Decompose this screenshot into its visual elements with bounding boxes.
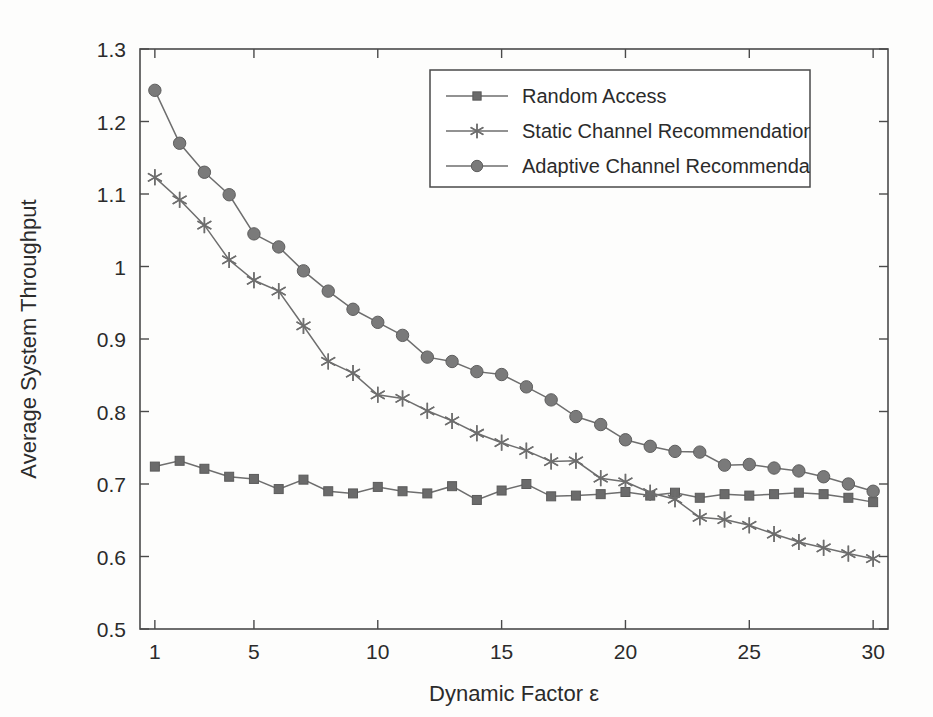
y-tick-label: 0.9 [97, 328, 126, 351]
marker-circle [694, 446, 706, 458]
marker-circle [248, 228, 260, 240]
marker-star [792, 534, 806, 550]
y-tick-label: 0.5 [97, 618, 126, 641]
marker-star [817, 540, 831, 556]
marker-square [720, 490, 729, 499]
marker-star [321, 353, 335, 369]
marker-circle [421, 351, 433, 363]
x-tick-label: 5 [248, 640, 260, 663]
marker-star [445, 413, 459, 429]
marker-square [819, 490, 828, 499]
marker-square [324, 487, 333, 496]
marker-star [470, 425, 484, 441]
marker-square [448, 482, 457, 491]
x-tick-label: 25 [738, 640, 761, 663]
marker-square [175, 456, 184, 465]
marker-square [299, 475, 308, 484]
marker-circle [520, 381, 532, 393]
marker-circle [322, 285, 334, 297]
marker-star [420, 403, 434, 419]
marker-star [866, 551, 880, 567]
legend-label: Random Access [522, 85, 667, 107]
marker-circle [471, 365, 483, 377]
y-tick-label: 0.6 [97, 546, 126, 569]
marker-square [423, 489, 432, 498]
marker-square [249, 474, 258, 483]
marker-circle [817, 471, 829, 483]
marker-circle [471, 160, 482, 171]
figure-container: 0.50.60.70.80.911.11.21.3151015202530 Dy… [0, 0, 933, 717]
chart-legend[interactable]: Random AccessStatic Channel Recommendati… [430, 70, 831, 187]
marker-circle [198, 166, 210, 178]
marker-star [767, 526, 781, 542]
marker-circle [793, 465, 805, 477]
marker-square [596, 490, 605, 499]
marker-circle [594, 418, 606, 430]
marker-square [225, 472, 234, 481]
series-line [155, 177, 873, 558]
y-axis-title: Average System Throughput [16, 199, 41, 478]
marker-circle [149, 84, 161, 96]
marker-circle [768, 462, 780, 474]
marker-circle [223, 189, 235, 201]
marker-circle [396, 329, 408, 341]
marker-circle [372, 316, 384, 328]
marker-circle [347, 303, 359, 315]
marker-square [349, 489, 358, 498]
marker-circle [570, 410, 582, 422]
marker-circle [867, 485, 879, 497]
marker-square [770, 490, 779, 499]
marker-star [148, 169, 162, 185]
marker-circle [273, 241, 285, 253]
marker-circle [495, 368, 507, 380]
marker-square [473, 92, 481, 100]
y-tick-label: 1 [114, 256, 126, 279]
legend-label: Static Channel Recommendation [522, 120, 814, 142]
legend-label: Adaptive Channel Recommendatio [522, 155, 831, 177]
marker-star [519, 443, 533, 459]
marker-square [869, 498, 878, 507]
marker-square [522, 480, 531, 489]
marker-circle [718, 459, 730, 471]
marker-square [745, 491, 754, 500]
series-1 [150, 456, 877, 506]
marker-star [841, 546, 855, 562]
marker-square [547, 492, 556, 501]
marker-circle [173, 137, 185, 149]
marker-square [844, 493, 853, 502]
marker-square [200, 464, 209, 473]
x-tick-label: 30 [861, 640, 884, 663]
marker-square [794, 488, 803, 497]
x-tick-label: 20 [614, 640, 637, 663]
y-tick-label: 0.7 [97, 473, 126, 496]
marker-circle [644, 440, 656, 452]
marker-star [742, 517, 756, 533]
marker-square [398, 487, 407, 496]
x-tick-label: 1 [149, 640, 161, 663]
marker-square [274, 485, 283, 494]
chart-canvas: 0.50.60.70.80.911.11.21.3151015202530 Dy… [0, 0, 933, 717]
marker-circle [743, 458, 755, 470]
marker-square [571, 491, 580, 500]
marker-star [247, 272, 261, 288]
marker-circle [842, 478, 854, 490]
marker-square [150, 462, 159, 471]
marker-circle [669, 445, 681, 457]
marker-star [495, 435, 509, 451]
marker-square [695, 493, 704, 502]
marker-circle [446, 355, 458, 367]
y-tick-label: 1.3 [97, 38, 126, 61]
y-tick-label: 0.8 [97, 401, 126, 424]
marker-circle [619, 434, 631, 446]
x-axis-title: Dynamic Factor ε [429, 681, 599, 706]
marker-square [472, 495, 481, 504]
marker-square [373, 482, 382, 491]
y-tick-label: 1.2 [97, 111, 126, 134]
marker-circle [297, 265, 309, 277]
y-tick-label: 1.1 [97, 183, 126, 206]
marker-square [497, 486, 506, 495]
marker-circle [545, 394, 557, 406]
marker-star [346, 365, 360, 381]
x-tick-label: 10 [366, 640, 389, 663]
x-tick-label: 15 [490, 640, 513, 663]
